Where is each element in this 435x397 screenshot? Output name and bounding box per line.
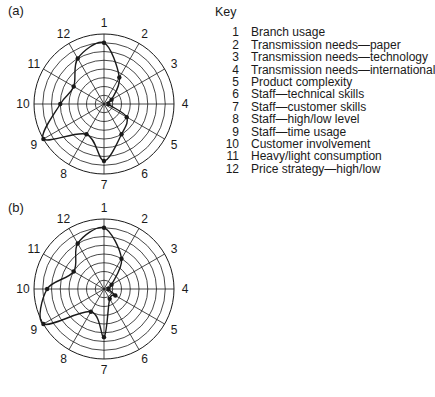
data-point-6 [107,297,111,301]
axis-label-12: 12 [57,212,71,226]
data-point-3 [109,97,113,101]
key-item-label: Price strategy—high/low [251,163,380,175]
key-legend: Key 1Branch usage2Transmission needs—pap… [215,6,435,175]
axis-label-5: 5 [171,138,178,152]
data-point-6 [119,132,123,136]
key-item-number: 11 [215,150,251,162]
data-point-8 [84,132,88,136]
data-point-5 [113,293,117,297]
axis-label-4: 4 [182,97,189,111]
data-point-11 [71,269,75,273]
data-point-8 [89,310,93,314]
key-item: 8Staff—high/low level [215,113,435,125]
data-point-7 [102,159,106,163]
axis-label-8: 8 [60,167,67,181]
radar-chart-b: 123456789101112 [0,185,210,385]
data-point-3 [109,282,113,286]
axis-label-10: 10 [16,282,30,296]
axis-label-9: 9 [31,323,38,337]
axis-label-6: 6 [141,167,148,181]
axis-label-11: 11 [28,57,41,71]
axis-label-10: 10 [16,97,30,111]
data-point-12 [76,56,80,60]
data-point-10 [58,102,62,106]
key-item: 11Heavy/light consumption [215,150,435,162]
key-item-number: 8 [215,113,251,125]
axis-label-6: 6 [141,352,148,366]
axis-label-9: 9 [31,138,38,152]
key-item-label: Heavy/light consumption [251,150,382,162]
axis-label-1: 1 [101,201,108,215]
data-point-7 [102,335,106,339]
key-item: 12Price strategy—high/low [215,163,435,175]
axis-label-5: 5 [171,323,178,337]
key-item: 1Branch usage [215,26,435,38]
data-point-2 [119,256,123,260]
key-item-label: Staff—high/low level [251,113,360,125]
key-item-number: 12 [215,163,251,175]
key-item-number: 1 [215,26,251,38]
data-point-9 [41,137,45,141]
key-item-number: 3 [215,51,251,63]
data-point-5 [125,115,129,119]
axis-label-4: 4 [182,282,189,296]
data-point-2 [117,75,121,79]
axis-label-11: 11 [28,242,41,256]
key-item-label: Staff—technical skills [251,88,364,100]
axis-label-1: 1 [101,16,108,30]
axis-label-3: 3 [171,57,178,71]
data-point-12 [76,241,80,245]
axis-label-12: 12 [57,27,71,41]
data-point-4 [106,287,110,291]
data-point-4 [106,102,110,106]
axis-label-8: 8 [60,352,67,366]
key-item: 6Staff—technical skills [215,88,435,100]
axis-label-2: 2 [141,27,148,41]
data-point-11 [71,84,75,88]
key-item-label: Transmission needs—technology [251,51,428,63]
data-point-1 [102,41,106,45]
key-item-number: 6 [215,88,251,100]
key-item: 3Transmission needs—technology [215,51,435,63]
axis-label-3: 3 [171,242,178,256]
key-item-label: Branch usage [251,26,325,38]
data-point-9 [41,322,45,326]
data-point-1 [102,226,106,230]
data-point-10 [45,287,49,291]
axis-label-2: 2 [141,212,148,226]
radar-chart-a: 123456789101112 [0,0,210,200]
key-title: Key [215,6,435,18]
axis-label-7: 7 [101,363,108,377]
